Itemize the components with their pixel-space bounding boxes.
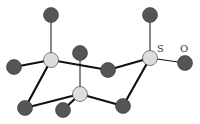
dark-atom	[18, 101, 33, 116]
dark-atom	[101, 63, 116, 78]
dark-atom	[143, 8, 158, 23]
dark-atom	[178, 56, 193, 71]
dark-atom	[73, 46, 88, 61]
molecule-svg: S O	[0, 0, 200, 124]
bond-group	[14, 15, 185, 110]
dark-atom	[56, 103, 71, 118]
dark-atom	[44, 8, 59, 23]
light-atom	[143, 51, 158, 66]
dark-atom	[116, 99, 131, 114]
light-atom	[44, 53, 59, 68]
atom-label-s: S	[157, 43, 164, 54]
dark-atom	[7, 60, 22, 75]
light-atom	[73, 87, 88, 102]
atom-label-o: O	[180, 43, 188, 54]
bond-line	[25, 60, 51, 108]
molecule-diagram: S O	[0, 0, 200, 124]
